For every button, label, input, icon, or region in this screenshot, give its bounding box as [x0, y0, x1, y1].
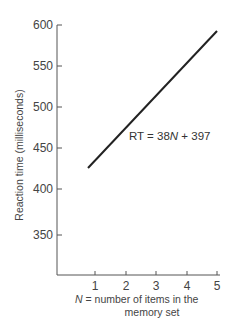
- y-axis-label: Reaction time (milliseconds): [13, 89, 25, 220]
- x-ticks: [95, 271, 217, 275]
- chart: 600 550 500 450 400 350 1 2 3 4 5 N = nu…: [0, 0, 234, 331]
- y-tick-400: 400: [33, 182, 53, 196]
- equation-annotation: RT = 38N + 397: [129, 130, 210, 142]
- y-tick-500: 500: [33, 100, 53, 114]
- x-axis-label-line1: N = number of items in the: [75, 293, 199, 305]
- y-ticks: [57, 25, 62, 235]
- rt-regression-line: [88, 31, 217, 168]
- x-tick-2: 2: [123, 279, 130, 293]
- y-tick-labels: 600 550 500 450 400 350: [33, 18, 53, 242]
- y-tick-550: 550: [33, 59, 53, 73]
- y-tick-600: 600: [33, 18, 53, 32]
- y-tick-450: 450: [33, 141, 53, 155]
- x-axis-label-line2: memory set: [125, 306, 180, 318]
- x-tick-3: 3: [153, 279, 160, 293]
- x-tick-labels: 1 2 3 4 5: [92, 279, 221, 293]
- x-tick-5: 5: [214, 279, 221, 293]
- y-tick-350: 350: [33, 228, 53, 242]
- x-tick-4: 4: [184, 279, 191, 293]
- x-tick-1: 1: [92, 279, 99, 293]
